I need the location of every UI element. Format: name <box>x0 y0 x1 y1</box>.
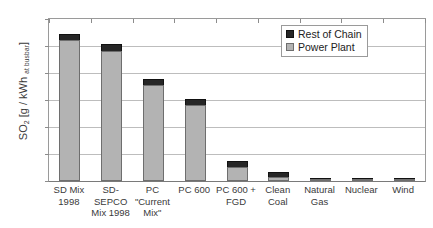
x-axis-label: SD Mix1998 <box>48 184 90 207</box>
legend-item-power-plant: Power Plant <box>286 41 362 53</box>
y-axis-title-text: SO2 [g / kWh at busbar] <box>17 42 29 140</box>
y-axis-tick <box>45 181 49 182</box>
x-axis-label: Nuclear <box>340 184 382 196</box>
bar-sd-mix-1998 <box>59 34 80 181</box>
x-axis-label: CleanCoal <box>257 184 299 207</box>
bar-segment-power-plant <box>143 85 164 181</box>
x-axis-label: PC 600 +FGD <box>215 184 257 207</box>
bar-segment-power-plant <box>185 105 206 181</box>
bar-segment-power-plant <box>59 40 80 181</box>
bar-segment-rest-of-chain <box>101 44 122 51</box>
y-axis-title: SO2 [g / kWh at busbar] <box>10 0 36 182</box>
so2-emissions-bar-chart: SO2 [g / kWh at busbar] 121086420 SD Mix… <box>0 0 433 228</box>
bar-segment-power-plant <box>352 179 373 181</box>
legend-item-rest-of-chain: Rest of Chain <box>286 28 362 40</box>
x-axis-label-line: Mix" <box>132 207 174 219</box>
bar-natural-gas <box>310 180 331 181</box>
bar-clean-coal <box>268 172 289 181</box>
x-axis-label: NaturalGas <box>299 184 341 207</box>
x-axis-label-line: Wind <box>382 184 424 196</box>
bar-segment-power-plant <box>394 179 415 181</box>
legend-label-power-plant: Power Plant <box>298 41 355 53</box>
bar-segment-power-plant <box>268 177 289 181</box>
x-axis-label-line: Clean <box>257 184 299 196</box>
x-axis-label-line: "Current <box>132 196 174 208</box>
x-axis-label-line: Coal <box>257 196 299 208</box>
bar-pc-current-mix <box>143 79 164 181</box>
x-axis-labels: SD Mix1998SD-SEPCOMix 1998PC"CurrentMix"… <box>48 184 426 228</box>
x-axis-label-line: SD Mix <box>48 184 90 196</box>
x-axis-label: Wind <box>382 184 424 196</box>
x-axis-label: PC"CurrentMix" <box>132 184 174 219</box>
legend-swatch-icon-power-plant <box>286 43 294 51</box>
bar-pc-600 <box>185 99 206 181</box>
x-axis-label-line: SD- <box>90 184 132 196</box>
bars-layer <box>49 19 425 181</box>
x-axis-label-line: FGD <box>215 196 257 208</box>
x-axis-label-line: Natural <box>299 184 341 196</box>
bar-segment-power-plant <box>101 51 122 181</box>
bar-segment-rest-of-chain <box>185 99 206 106</box>
x-axis-label-line: SEPCO <box>90 196 132 208</box>
legend-swatch-icon-rest-of-chain <box>286 30 294 38</box>
bar-nuclear <box>352 179 373 181</box>
x-axis-label: SD-SEPCOMix 1998 <box>90 184 132 219</box>
x-axis-label-line: Gas <box>299 196 341 208</box>
bar-segment-power-plant <box>310 179 331 181</box>
chart-legend: Rest of Chain Power Plant <box>281 25 368 57</box>
bar-wind <box>394 178 415 181</box>
plot-area: 121086420 <box>48 18 426 182</box>
x-axis-tick <box>425 19 426 23</box>
bar-segment-power-plant <box>227 167 248 181</box>
x-axis-label-line: 1998 <box>48 196 90 208</box>
x-axis-label-line: PC 600 <box>173 184 215 196</box>
x-axis-label-line: Nuclear <box>340 184 382 196</box>
bar-pc-600-fgd <box>227 161 248 181</box>
legend-label-rest-of-chain: Rest of Chain <box>298 28 362 40</box>
x-axis-label-line: PC 600 + <box>215 184 257 196</box>
x-axis-label-line: Mix 1998 <box>90 207 132 219</box>
x-axis-label-line: PC <box>132 184 174 196</box>
x-axis-label: PC 600 <box>173 184 215 196</box>
bar-sd-sepco-mix-1998 <box>101 44 122 181</box>
